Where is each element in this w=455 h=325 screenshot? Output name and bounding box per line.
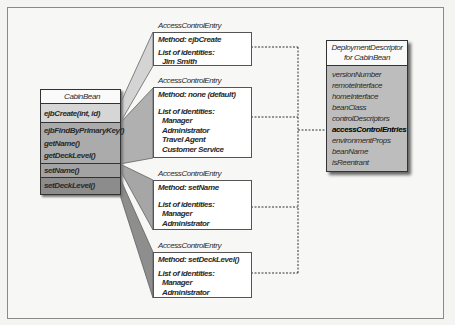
identity: Manager [158, 209, 247, 219]
access-control-entry-1: Method: ejbCreate List of identities: Ji… [153, 32, 252, 66]
access-control-entry-2: Method: none (default) List of identitie… [153, 87, 252, 158]
descriptor-title: DeploymentDescriptor [327, 43, 407, 53]
identity: Customer Service [158, 145, 247, 155]
entry-identities-label: List of identities: [158, 48, 247, 58]
access-control-entry-3: Method: setName List of identities: Mana… [153, 180, 252, 230]
property-isreentrant: isReentrant [332, 157, 407, 168]
entry-method: Method: setName [158, 183, 247, 193]
method-label: setName() [44, 166, 79, 175]
entry-method: Method: none (default) [158, 90, 247, 100]
property-environmentprops: environmentProps [332, 135, 407, 146]
descriptor-properties: versionNumber remoteInterface homeInterf… [327, 66, 407, 171]
property-accesscontrolentries: accessControlEntries [332, 124, 407, 135]
method-ejbfindbyprimarykey: ejbFindByPrimaryKey() [44, 125, 120, 138]
entry-4-label: AccessControlEntry [158, 241, 221, 250]
entry-2-label: AccessControlEntry [158, 76, 221, 85]
entry-identities-label: List of identities: [158, 107, 247, 117]
method-getdecklevel: getDeckLevel() [44, 150, 120, 163]
identity: Administrator [158, 126, 247, 136]
method-ejbcreate: ejbCreate(int, id) [41, 104, 120, 123]
entry-3-label: AccessControlEntry [158, 169, 221, 178]
method-setdecklevel: setDeckLevel() [41, 178, 120, 194]
property-remoteinterface: remoteInterface [332, 80, 407, 91]
method-group-getters: ejbFindByPrimaryKey() getName() getDeckL… [41, 123, 120, 164]
method-label: setDeckLevel() [44, 181, 95, 190]
property-versionnumber: versionNumber [332, 69, 407, 80]
property-homeinterface: homeInterface [332, 91, 407, 102]
method-label: ejbCreate(int, id) [44, 109, 100, 118]
property-controldescriptors: controlDescriptors [332, 113, 407, 124]
identity: Manager [158, 116, 247, 126]
property-beanname: beanName [332, 146, 407, 157]
identity: Administrator [158, 219, 247, 229]
identity: Travel Agent [158, 135, 247, 145]
property-beanclass: beanClass [332, 102, 407, 113]
deployment-descriptor: DeploymentDescriptor for CabinBean versi… [326, 40, 408, 172]
method-getname: getName() [44, 138, 120, 151]
entry-identities-label: List of identities: [158, 200, 247, 210]
descriptor-subtitle: for CabinBean [327, 53, 407, 63]
cabinbean-class: CabinBean ejbCreate(int, id) ejbFindByPr… [40, 89, 121, 195]
cabinbean-title: CabinBean [41, 90, 120, 104]
entry-method: Method: ejbCreate [158, 35, 247, 45]
entry-1-label: AccessControlEntry [158, 21, 221, 30]
entry-identities-label: List of identities: [158, 269, 247, 279]
identity: Manager [158, 278, 247, 288]
identity: Jim Smith [158, 57, 247, 67]
identity: Administrator [158, 288, 247, 298]
descriptor-header: DeploymentDescriptor for CabinBean [327, 41, 407, 66]
access-control-entry-4: Method: setDeckLevel() List of identitie… [153, 252, 252, 298]
method-setname: setName() [41, 164, 120, 178]
entry-method: Method: setDeckLevel() [158, 255, 247, 265]
